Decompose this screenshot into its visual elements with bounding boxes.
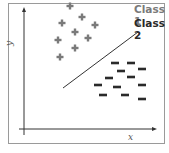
- minus-icon: [138, 68, 146, 71]
- minus-icon: [121, 94, 129, 97]
- x-axis-arrow-icon: [152, 127, 157, 131]
- minus-icon: [127, 62, 135, 65]
- class1-points: [55, 3, 99, 61]
- plus-icon: [55, 37, 62, 44]
- minus-icon: [105, 77, 113, 80]
- y-axis-arrow-icon: [22, 7, 26, 12]
- plus-icon: [57, 54, 64, 61]
- minus-icon: [94, 84, 102, 87]
- plus-icon: [59, 20, 66, 27]
- minus-icon: [113, 86, 121, 89]
- minus-icon: [99, 94, 107, 97]
- minus-icon: [138, 98, 146, 101]
- plus-icon: [92, 22, 99, 29]
- class2-points: [94, 62, 146, 101]
- plus-icon: [72, 29, 79, 36]
- decision-boundary: [63, 32, 138, 88]
- y-axis-label: y: [4, 40, 14, 47]
- y-axis: [22, 7, 26, 135]
- plus-icon: [79, 14, 86, 21]
- plus-icon: [85, 35, 92, 42]
- x-axis-label: x: [128, 132, 133, 142]
- minus-icon: [111, 62, 119, 65]
- plus-icon: [72, 45, 79, 52]
- legend-class2: Class 2: [134, 17, 169, 41]
- minus-icon: [127, 76, 135, 79]
- minus-icon: [138, 84, 146, 87]
- x-axis: [19, 127, 157, 131]
- minus-icon: [117, 70, 125, 73]
